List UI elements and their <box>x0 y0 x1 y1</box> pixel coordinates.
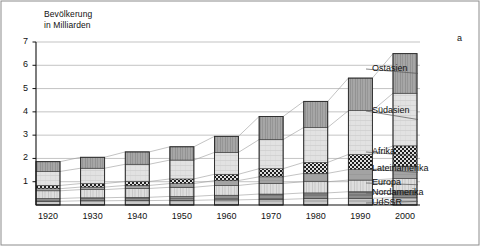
y-tick-label: 1 <box>14 176 28 186</box>
bar-segment <box>125 164 149 181</box>
bar-segment <box>81 157 105 168</box>
bar-segment <box>36 191 60 199</box>
x-tick-label: 1930 <box>73 211 113 221</box>
bar-segment <box>170 200 194 205</box>
bar-segment <box>304 162 328 173</box>
bar-segment <box>36 198 60 201</box>
x-tick-label: 1940 <box>117 211 157 221</box>
bar-segment <box>348 111 372 155</box>
x-tick-label: 1980 <box>296 211 336 221</box>
bar-segment <box>348 170 372 180</box>
bar-segment <box>36 162 60 172</box>
bar-segment <box>125 197 149 200</box>
bar-segment <box>170 147 194 160</box>
bar-segment <box>125 188 149 197</box>
legend-item-europa: Europa <box>372 177 401 187</box>
bar-segment <box>259 183 283 194</box>
chart-canvas <box>0 0 480 246</box>
x-tick-label: 1960 <box>207 211 247 221</box>
bar-segment <box>393 54 417 94</box>
bar-segment <box>304 101 328 127</box>
x-tick-label: 2000 <box>385 211 425 221</box>
bar-segment <box>348 180 372 192</box>
bar-segment <box>36 189 60 191</box>
bar-segment <box>348 154 372 169</box>
bar-segment <box>170 179 194 184</box>
y-tick-label: 7 <box>14 36 28 46</box>
bar-segment <box>259 177 283 184</box>
bar-segment <box>81 190 105 198</box>
bar-segment <box>259 194 283 199</box>
bar-segment <box>304 193 328 199</box>
bar-segment <box>81 168 105 183</box>
legend-item-ostasien: Ostasien <box>372 63 408 73</box>
legend-item-nordamerika: Nordamerika <box>372 187 424 197</box>
bar-segment <box>81 184 105 187</box>
population-stacked-bar-chart: Bevölkerung in Milliarden a 1234567 1920… <box>0 0 480 246</box>
bar-segment <box>215 174 239 180</box>
bar-segment <box>304 173 328 181</box>
bar-segment <box>125 152 149 164</box>
bar-segment <box>259 140 283 169</box>
x-tick-label: 1920 <box>28 211 68 221</box>
bar-segment <box>348 192 372 199</box>
bar-segment <box>170 196 194 200</box>
legend-item-afrika: Afrika <box>372 146 395 156</box>
bar-segment <box>125 201 149 205</box>
bar-segment <box>215 181 239 186</box>
y-tick-label: 2 <box>14 152 28 162</box>
bar-segment <box>348 78 372 111</box>
bar-segment <box>81 198 105 201</box>
legend-item-lateinamerika: Lateinamerika <box>372 163 429 173</box>
bar-segment <box>348 198 372 205</box>
y-tick-label: 6 <box>14 59 28 69</box>
bar-segment <box>36 171 60 185</box>
bar-segment <box>170 184 194 188</box>
bar-segment <box>259 169 283 177</box>
bar-segment <box>393 93 417 146</box>
bar-segment <box>81 187 105 190</box>
bar-segment <box>170 187 194 196</box>
bar-segment <box>304 199 328 205</box>
bar-segment <box>125 185 149 188</box>
bar-segment <box>81 201 105 205</box>
bar-segment <box>304 127 328 162</box>
y-tick-label: 4 <box>14 106 28 116</box>
bar-segment <box>36 201 60 205</box>
bar-segment <box>125 181 149 185</box>
legend-item-südasien: Südasien <box>372 105 410 115</box>
bar-segment <box>215 195 239 200</box>
bar-segment <box>215 152 239 174</box>
x-tick-label: 1950 <box>162 211 202 221</box>
bar-segment <box>304 182 328 193</box>
bar-segment <box>215 185 239 195</box>
bar-segment <box>36 185 60 188</box>
bar-segment <box>170 160 194 179</box>
y-tick-label: 3 <box>14 129 28 139</box>
y-tick-label: 5 <box>14 83 28 93</box>
x-tick-label: 1990 <box>340 211 380 221</box>
bar-segment <box>215 136 239 152</box>
bar-segment <box>259 199 283 205</box>
bar-segment <box>259 117 283 140</box>
legend-item-udssr: UdSSR <box>372 197 402 207</box>
x-tick-label: 1970 <box>251 211 291 221</box>
bar-segment <box>215 200 239 205</box>
